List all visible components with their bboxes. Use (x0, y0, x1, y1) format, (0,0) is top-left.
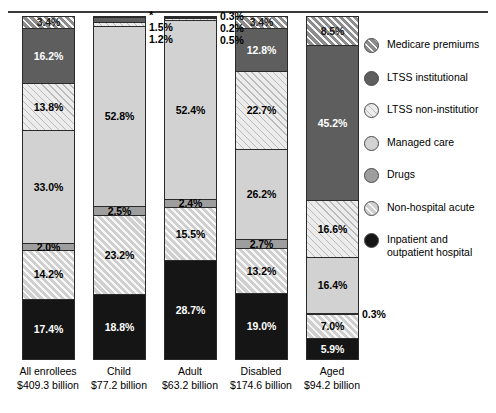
segment-value-label: 2.7% (250, 239, 274, 250)
bar-segment-adult-nonhosp[interactable]: 15.5% (165, 208, 216, 261)
bar-segment-all-enrollees-medicare[interactable]: 3.4% (23, 17, 74, 29)
bar-segment-aged-nonhosp[interactable]: 7.0% (307, 315, 358, 339)
bar-segment-aged-ltss_non[interactable]: 16.6% (307, 201, 358, 258)
bar-segment-adult-managed[interactable]: 52.4% (165, 21, 216, 200)
legend-item-4[interactable]: Drugs (364, 168, 496, 183)
segment-value-label-outside-ltss_non: 0.5% (220, 35, 244, 46)
legend-swatch-icon (364, 71, 379, 86)
segment-value-label: 16.4% (318, 280, 347, 291)
segment-value-label: 12.8% (247, 45, 276, 56)
bar-segment-aged-inpatient[interactable]: 5.9% (307, 339, 358, 359)
bar-column-adult: 52.4%2.4%15.5%28.7%0.3%0.2%0.5% (164, 16, 217, 360)
legend-item-1[interactable]: LTSS institutional (364, 71, 496, 86)
legend-item-0[interactable]: Medicare premiums (364, 38, 496, 53)
segment-value-label: 3.4% (37, 17, 61, 28)
bar-segment-disabled-drugs[interactable]: 2.7% (236, 240, 287, 249)
legend-item-5[interactable]: Non-hospital acute (364, 201, 496, 216)
stacked-bar-child[interactable]: 52.8%2.5%23.2%18.8% (93, 16, 146, 360)
x-tick-category: Aged (287, 364, 377, 378)
segment-value-label: 7.0% (321, 321, 345, 332)
legend-label: Inpatient and outpatient hospital (387, 233, 472, 258)
segment-value-label: 19.0% (247, 321, 276, 332)
bar-segment-child-drugs[interactable]: 2.5% (94, 207, 145, 216)
segment-value-label: 45.2% (318, 118, 347, 129)
stacked-bar-disabled[interactable]: 3.4%12.8%22.7%26.2%2.7%13.2%19.0% (235, 16, 288, 360)
segment-value-label: 13.2% (247, 266, 276, 277)
bar-segment-all-enrollees-nonhosp[interactable]: 14.2% (23, 251, 74, 300)
bar-segment-adult-drugs[interactable]: 2.4% (165, 200, 216, 208)
chart-legend: Medicare premiumsLTSS institutionalLTSS … (364, 38, 496, 276)
segment-value-label: 22.7% (247, 105, 276, 116)
bar-segment-child-inpatient[interactable]: 18.8% (94, 295, 145, 359)
legend-swatch-icon (364, 136, 379, 151)
segment-value-label: 8.5% (321, 26, 345, 37)
segment-value-label: 28.7% (176, 305, 205, 316)
segment-value-label: 33.0% (34, 182, 63, 193)
bar-segment-disabled-ltss_non[interactable]: 22.7% (236, 72, 287, 150)
bar-column-disabled: 3.4%12.8%22.7%26.2%2.7%13.2%19.0% (235, 16, 288, 360)
legend-item-6[interactable]: Inpatient and outpatient hospital (364, 233, 496, 258)
legend-swatch-icon (364, 201, 379, 216)
bar-column-aged: 8.5%45.2%16.6%16.4%7.0%5.9%0.3% (306, 16, 359, 360)
x-axis-labels: All enrollees$409.3 billionChild$77.2 bi… (8, 364, 364, 400)
legend-label: Drugs (387, 168, 415, 181)
bar-segment-all-enrollees-ltss_non[interactable]: 13.8% (23, 84, 74, 131)
segment-value-label: 52.4% (176, 105, 205, 116)
bar-segment-aged-medicare[interactable]: 8.5% (307, 17, 358, 46)
bar-column-all-enrollees: 3.4%16.2%13.8%33.0%2.0%14.2%17.4% (22, 16, 75, 360)
segment-value-label-outside-medicare: 0.3% (220, 11, 244, 22)
bar-segment-disabled-managed[interactable]: 26.2% (236, 150, 287, 240)
legend-label: Non-hospital acute (387, 201, 475, 214)
legend-swatch-icon (364, 103, 379, 118)
bar-segment-all-enrollees-drugs[interactable]: 2.0% (23, 244, 74, 251)
x-axis-tick-aged: Aged$94.2 billion (287, 364, 377, 392)
segment-value-label-outside-ltss_inst: 0.2% (220, 23, 244, 34)
legend-label: LTSS non-institutior (387, 103, 478, 116)
segment-value-label: 16.2% (34, 51, 63, 62)
bar-segment-child-nonhosp[interactable]: 23.2% (94, 216, 145, 295)
legend-swatch-icon (364, 38, 379, 53)
legend-label: LTSS institutional (387, 71, 468, 84)
bar-segment-adult-inpatient[interactable]: 28.7% (165, 261, 216, 359)
bar-segment-child-managed[interactable]: 52.8% (94, 27, 145, 207)
bar-segment-aged-managed[interactable]: 16.4% (307, 258, 358, 314)
segment-value-label: 14.2% (34, 269, 63, 280)
segment-value-label: 16.6% (318, 224, 347, 235)
segment-value-label-outside-ltss_inst: 1.5% (149, 22, 173, 33)
legend-label: Managed care (387, 136, 454, 149)
legend-swatch-icon (364, 233, 379, 248)
legend-label: Medicare premiums (387, 38, 479, 51)
bar-segment-all-enrollees-ltss_inst[interactable]: 16.2% (23, 29, 74, 84)
segment-value-label: 2.5% (108, 206, 132, 217)
legend-item-2[interactable]: LTSS non-institutior (364, 103, 496, 118)
segment-value-label-outside-medicare: * (149, 10, 153, 21)
segment-value-label: 13.8% (34, 102, 63, 113)
segment-value-label: 3.4% (250, 17, 274, 28)
segment-value-label: 23.2% (105, 250, 134, 261)
legend-swatch-icon (364, 168, 379, 183)
legend-item-3[interactable]: Managed care (364, 136, 496, 151)
segment-value-label-outside-drugs: 0.3% (362, 309, 386, 320)
stacked-bar-aged[interactable]: 8.5%45.2%16.6%16.4%7.0%5.9% (306, 16, 359, 360)
bar-segment-disabled-nonhosp[interactable]: 13.2% (236, 249, 287, 294)
stacked-bar-chart-plot-area: 3.4%16.2%13.8%33.0%2.0%14.2%17.4%52.8%2.… (8, 16, 358, 360)
segment-value-label: 26.2% (247, 189, 276, 200)
segment-value-label: 2.4% (179, 198, 203, 209)
stacked-bar-all-enrollees[interactable]: 3.4%16.2%13.8%33.0%2.0%14.2%17.4% (22, 16, 75, 360)
segment-value-label-outside-ltss_non: 1.2% (149, 34, 173, 45)
bar-segment-disabled-inpatient[interactable]: 19.0% (236, 294, 287, 359)
bar-column-child: 52.8%2.5%23.2%18.8%*1.5%1.2% (93, 16, 146, 360)
segment-value-label: 5.9% (321, 344, 345, 355)
segment-value-label: 15.5% (176, 229, 205, 240)
bar-segment-aged-ltss_inst[interactable]: 45.2% (307, 46, 358, 201)
bar-segment-all-enrollees-inpatient[interactable]: 17.4% (23, 300, 74, 359)
stacked-bar-adult[interactable]: 52.4%2.4%15.5%28.7% (164, 16, 217, 360)
bar-segment-all-enrollees-managed[interactable]: 33.0% (23, 131, 74, 244)
segment-value-label: 52.8% (105, 111, 134, 122)
segment-value-label: 18.8% (105, 322, 134, 333)
segment-value-label: 17.4% (34, 324, 63, 335)
top-divider-rule (8, 11, 488, 13)
segment-value-label: 2.0% (37, 242, 61, 253)
x-tick-amount: $94.2 billion (287, 378, 377, 392)
